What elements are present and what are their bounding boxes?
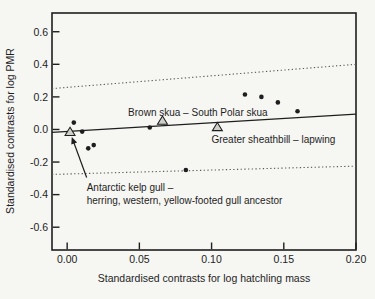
annotation-arrowhead <box>71 137 77 145</box>
y-axis-title: Standardised contrasts for log PMR <box>4 48 16 214</box>
species-pair-contrast-point <box>86 146 91 151</box>
highlighted-contrast-point <box>212 122 222 130</box>
species-pair-contrast-point <box>80 129 85 134</box>
species-pair-contrast-point <box>243 92 248 97</box>
upper-confidence-band <box>52 64 356 88</box>
species-pair-contrast-point <box>259 95 264 100</box>
lower-confidence-band <box>52 166 356 174</box>
species-pair-contrast-point <box>295 109 300 114</box>
y-tick-label: 0.6 <box>33 26 48 38</box>
species-pair-contrast-point <box>91 143 96 148</box>
x-tick-label: 0.15 <box>274 253 295 265</box>
scanned-figure-page: 0.000.050.100.150.200.60.40.20.0-0.2-0.4… <box>0 0 375 299</box>
x-tick-label: 0.05 <box>129 253 150 265</box>
y-tick-label: -0.6 <box>30 221 48 233</box>
kelp-gull-label: Antarctic kelp gull – <box>87 182 174 193</box>
annotation-arrow <box>73 140 87 178</box>
y-tick-label: -0.2 <box>30 156 48 168</box>
x-tick-label: 0.00 <box>57 253 78 265</box>
x-axis-title: Standardised contrasts for log hatchling… <box>98 272 310 284</box>
sheathbill-label: Greater sheathbill – lapwing <box>211 134 335 145</box>
species-pair-contrast-point <box>147 125 152 130</box>
species-pair-contrast-point <box>276 100 281 105</box>
kelp-gull-label: herring, western, yellow-footed gull anc… <box>87 195 283 206</box>
y-tick-label: 0.0 <box>33 123 48 135</box>
species-pair-contrast-point <box>72 120 77 125</box>
y-tick-label: 0.2 <box>33 91 48 103</box>
scatter-chart: 0.000.050.100.150.200.60.40.20.0-0.2-0.4… <box>0 0 375 299</box>
x-tick-label: 0.10 <box>201 253 222 265</box>
y-tick-label: -0.4 <box>30 188 48 200</box>
plot-layer: 0.000.050.100.150.200.60.40.20.0-0.2-0.4… <box>30 13 366 265</box>
plot-frame <box>52 13 356 250</box>
y-tick-label: 0.4 <box>33 58 48 70</box>
species-pair-contrast-point <box>184 168 189 173</box>
x-tick-label: 0.20 <box>346 253 367 265</box>
brown-skua-label: Brown skua – South Polar skua <box>128 107 268 118</box>
